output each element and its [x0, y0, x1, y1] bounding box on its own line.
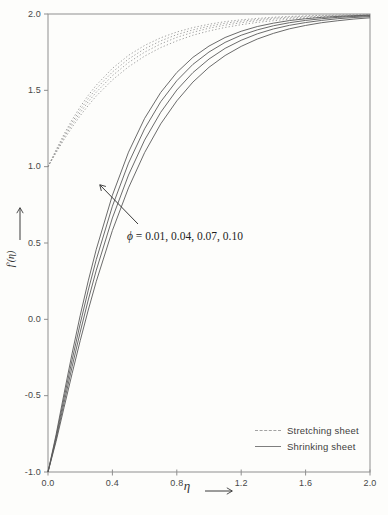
axis-ticks: [44, 14, 370, 476]
curve-stretching-phi-0.04: [48, 15, 370, 167]
x-tick-label-1.6: 1.6: [291, 478, 321, 489]
curves-group: [48, 15, 370, 472]
phi-annotation-text: = 0.01, 0.04, 0.07, 0.10: [133, 230, 243, 242]
x-tick-label-0.4: 0.4: [97, 478, 127, 489]
curve-stretching-phi-0.1: [48, 15, 370, 167]
legend: Stretching sheet Shrinking sheet: [255, 422, 359, 454]
y-axis-label: f'(η): [5, 241, 19, 277]
y-tick-label--0.5: -0.5: [0, 390, 41, 401]
phi-annotation: ϕ = 0.01, 0.04, 0.07, 0.10: [127, 230, 243, 242]
curve-stretching-phi-0.07: [48, 15, 370, 167]
x-tick-label-1.2: 1.2: [226, 478, 256, 489]
y-tick-label-1.5: 1.5: [0, 85, 41, 96]
x-tick-label-2.0: 2.0: [355, 478, 385, 489]
y-tick-label-1.0: 1.0: [0, 161, 41, 172]
legend-line-stretching-icon: [255, 430, 281, 431]
legend-item-stretching: Stretching sheet: [255, 422, 359, 438]
plot-frame: [48, 14, 370, 472]
curve-shrinking-phi-0.1: [48, 15, 370, 472]
curve-stretching-phi-0.01: [48, 16, 370, 167]
x-tick-label-0.0: 0.0: [33, 478, 63, 489]
legend-label-shrinking: Shrinking sheet: [287, 441, 355, 452]
y-tick-label-2.0: 2.0: [0, 9, 41, 20]
legend-line-shrinking-icon: [255, 446, 281, 447]
x-axis-label: η: [179, 478, 195, 494]
y-tick-label--1.0: -1.0: [0, 467, 41, 478]
figure-root: 0.00.40.81.21.62.02.01.51.00.50.0-0.5-1.…: [0, 0, 388, 515]
legend-label-stretching: Stretching sheet: [287, 425, 359, 436]
curve-shrinking-phi-0.01: [48, 18, 370, 472]
plot-border: [48, 14, 370, 472]
legend-item-shrinking: Shrinking sheet: [255, 438, 359, 454]
y-tick-label-0.0: 0.0: [0, 314, 41, 325]
curve-shrinking-phi-0.07: [48, 16, 370, 472]
